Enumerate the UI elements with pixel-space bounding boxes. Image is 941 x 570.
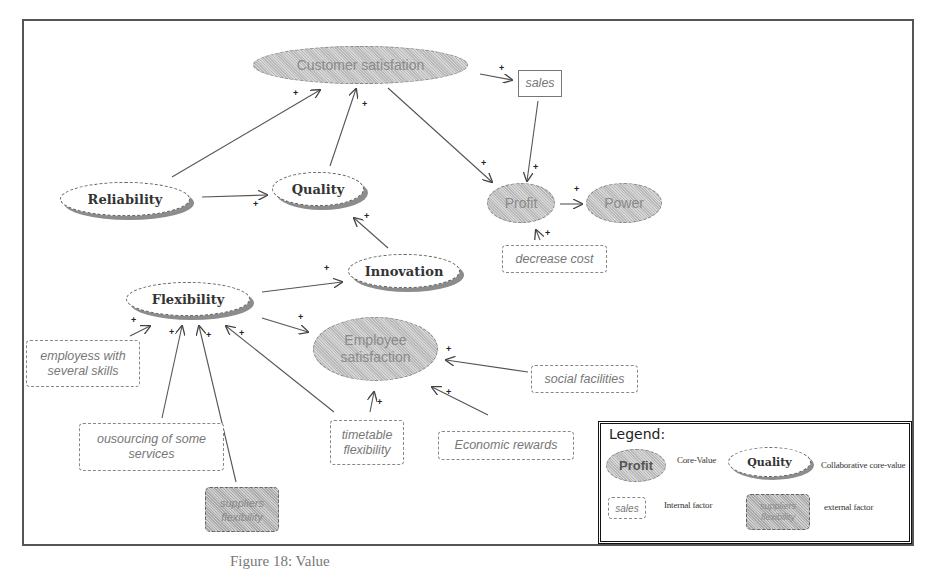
- legend-internal-desc: Internal factor: [664, 500, 712, 510]
- edge-economic-employee: [432, 387, 488, 415]
- edge-sign: +: [362, 99, 367, 109]
- edge-reliability-quality: [202, 195, 267, 197]
- node-timetable-flexibility: timetable flexibility: [330, 420, 404, 465]
- legend-sample-label: flexibility: [761, 512, 795, 523]
- legend-internal-sample: sales: [608, 497, 646, 519]
- node-suppliers-flexibility: suppliers flexibility: [205, 487, 279, 532]
- edge-social-employee: [446, 360, 528, 372]
- edge-sign: +: [169, 327, 174, 337]
- node-label: Customer satisfation: [297, 57, 425, 74]
- figure-caption: Figure 18: Value: [230, 553, 330, 570]
- legend-core-value-sample: Profit: [606, 449, 666, 482]
- edge-sign: +: [481, 158, 486, 168]
- node-label: Quality: [292, 182, 345, 197]
- node-label: Employee: [344, 332, 406, 349]
- edge-flexibility-innovation: [262, 282, 342, 292]
- node-label: sales: [525, 76, 554, 91]
- node-employee-satisfaction: Employee satisfaction: [313, 317, 438, 381]
- edge-sign: +: [446, 387, 451, 397]
- legend-collaborative-desc: Collaborative core-value: [821, 460, 905, 470]
- edge-sign: +: [293, 88, 298, 98]
- node-label: decrease cost: [516, 252, 594, 267]
- node-economic-rewards: Economic rewards: [438, 431, 574, 460]
- node-quality: Quality: [272, 172, 364, 206]
- node-innovation: Innovation: [348, 254, 460, 288]
- node-label: flexibility: [343, 443, 390, 458]
- node-social-facilities: social facilities: [531, 365, 638, 393]
- node-flexibility: Flexibility: [126, 282, 250, 316]
- node-label: several skills: [48, 364, 119, 379]
- node-label: employess with: [40, 349, 125, 364]
- edge-innovation-quality: [354, 218, 388, 248]
- legend-sample-label: Profit: [619, 457, 653, 474]
- edge-sign: +: [131, 315, 136, 325]
- edge-sign: +: [206, 330, 211, 340]
- node-label: suppliers: [220, 496, 264, 510]
- edge-sign: +: [574, 184, 579, 194]
- edge-timetable-employee: [370, 392, 374, 412]
- node-sales: sales: [518, 70, 562, 97]
- edge-reliability-customer: [172, 90, 320, 177]
- edge-sign: +: [499, 63, 504, 73]
- edge-sign: +: [364, 211, 369, 221]
- node-label: timetable: [342, 428, 393, 443]
- legend-title: Legend:: [609, 426, 665, 442]
- edge-sign: +: [324, 263, 329, 273]
- node-outsourcing: ousourcing of some services: [79, 423, 224, 471]
- node-label: Flexibility: [152, 292, 225, 307]
- edge-sign: +: [298, 312, 303, 322]
- node-label: Profit: [505, 195, 538, 212]
- node-label: ousourcing of some: [97, 432, 206, 447]
- edge-skills-flexibility: [130, 326, 150, 336]
- edge-outsourcing-flexibility: [162, 326, 182, 418]
- node-customer-satisfaction: Customer satisfation: [253, 46, 468, 84]
- edge-sign: +: [239, 328, 244, 338]
- legend-external-sample: suppliers flexibility: [746, 494, 810, 530]
- edge-customer-sales: [480, 74, 512, 80]
- edge-decrease-cost-profit: [536, 230, 540, 240]
- edge-sign: +: [253, 199, 258, 209]
- node-label: social facilities: [545, 372, 625, 387]
- legend-sample-label: sales: [615, 501, 638, 516]
- edge-sign: +: [446, 344, 451, 354]
- node-profit: Profit: [487, 183, 555, 223]
- legend-collaborative-sample: Quality: [728, 447, 811, 477]
- node-decrease-cost: decrease cost: [502, 245, 607, 273]
- node-label: satisfaction: [340, 349, 410, 366]
- node-label: Power: [604, 195, 644, 212]
- node-employees-skills: employess with several skills: [26, 340, 140, 387]
- node-label: services: [129, 447, 175, 462]
- node-reliability: Reliability: [60, 182, 190, 216]
- node-label: flexibility: [221, 510, 263, 524]
- legend-external-desc: external factor: [824, 502, 873, 512]
- edge-sign: +: [377, 397, 382, 407]
- legend: Legend: Profit Core-Value Quality Collab…: [598, 421, 912, 544]
- edge-customer-profit: [388, 88, 492, 182]
- legend-core-value-desc: Core-Value: [677, 455, 716, 465]
- legend-sample-label: Quality: [747, 456, 792, 469]
- node-label: Reliability: [88, 192, 163, 207]
- edge-sign: +: [533, 162, 538, 172]
- node-label: Innovation: [365, 264, 444, 279]
- node-power: Power: [586, 183, 662, 223]
- edge-quality-customer: [330, 89, 356, 166]
- legend-sample-label: suppliers: [760, 501, 796, 512]
- node-label: Economic rewards: [455, 438, 558, 453]
- edge-sign: +: [545, 228, 550, 238]
